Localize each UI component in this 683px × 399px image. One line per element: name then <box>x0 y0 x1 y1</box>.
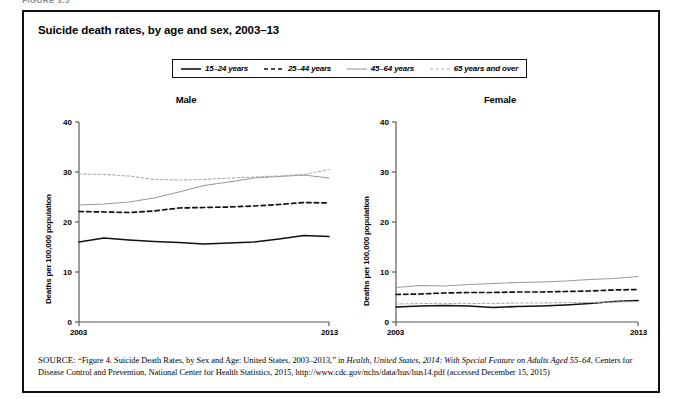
x-tick-male-end: 2013 <box>321 328 338 337</box>
line-swatch-solid-gray-icon <box>347 65 367 73</box>
figure-box: Suicide death rates, by age and sex, 200… <box>22 10 660 393</box>
y-tick-label: 30 <box>380 168 389 177</box>
y-axis-label-male: Deaths per 100,000 population <box>44 194 53 304</box>
chart-panel-male: Male Deaths per 100,000 population 01020… <box>34 94 354 344</box>
line-chart-female: 010203040 <box>396 122 638 322</box>
line-chart-male: 010203040 <box>79 122 329 322</box>
series-line <box>79 170 329 181</box>
y-tick-label: 20 <box>380 218 389 227</box>
series-line <box>79 203 329 213</box>
y-tick-label: 0 <box>68 318 73 327</box>
panel-title-female: Female <box>350 94 650 105</box>
legend-item-25-44: 25–44 years <box>264 64 331 73</box>
legend-item-15-24: 15–24 years <box>181 64 248 73</box>
source-text-part1: “Figure 4. Suicide Death Rates, by Sex a… <box>76 356 347 365</box>
figure-title: Suicide death rates, by age and sex, 200… <box>38 24 279 36</box>
series-line <box>396 277 638 288</box>
plot-area-female: 010203040 2003 2013 <box>396 122 638 322</box>
y-tick-label: 10 <box>63 268 72 277</box>
legend-label-45-64: 45–64 years <box>371 64 414 73</box>
line-swatch-solid-icon <box>181 65 201 73</box>
line-swatch-dotted-icon <box>430 65 450 73</box>
legend-label-15-24: 15–24 years <box>205 64 248 73</box>
y-tick-label: 20 <box>63 218 72 227</box>
source-italic-title: Health, United States, 2014: With Specia… <box>347 356 591 365</box>
plot-area-male: 010203040 2003 2013 <box>79 122 329 322</box>
legend-item-45-64: 45–64 years <box>347 64 414 73</box>
x-tick-male-start: 2003 <box>70 328 87 337</box>
y-tick-label: 40 <box>380 118 389 127</box>
line-swatch-dashed-icon <box>264 65 284 73</box>
series-line <box>396 290 638 295</box>
chart-legend: 15–24 years 25–44 years 45–64 years 65 y… <box>172 59 527 78</box>
page-header-text: FIGURE 3.5 <box>22 0 112 5</box>
panel-title-male: Male <box>26 94 346 105</box>
x-tick-female-end: 2013 <box>630 328 647 337</box>
y-tick-label: 0 <box>385 318 390 327</box>
x-tick-female-start: 2003 <box>387 328 404 337</box>
chart-panel-female: Female Deaths per 100,000 population 010… <box>356 94 656 344</box>
legend-label-25-44: 25–44 years <box>288 64 331 73</box>
legend-label-65-over: 65 years and over <box>454 64 518 73</box>
y-tick-label: 30 <box>63 168 72 177</box>
series-line <box>79 236 329 245</box>
y-tick-label: 40 <box>63 118 72 127</box>
y-tick-label: 10 <box>380 268 389 277</box>
legend-item-65-over: 65 years and over <box>430 64 518 73</box>
source-note: SOURCE: “Figure 4. Suicide Death Rates, … <box>38 355 644 378</box>
source-prefix: SOURCE: <box>38 355 76 365</box>
y-axis-label-female: Deaths per 100,000 population <box>362 196 371 306</box>
page-header-sliver: FIGURE 3.5 <box>22 0 112 8</box>
